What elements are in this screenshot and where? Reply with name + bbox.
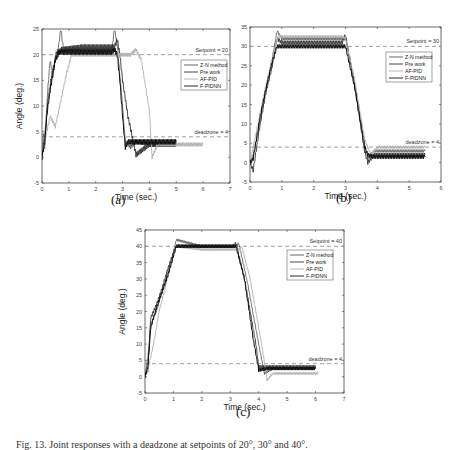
x-tick-label: 5 (175, 186, 178, 192)
legend: Z-N methodPre workAF-PIDF-PIDNN (386, 52, 433, 82)
x-tick-label: 0 (143, 396, 146, 402)
y-tick-label: 5 (139, 357, 142, 363)
y-tick-label: 20 (33, 52, 39, 58)
y-tick-label: 10 (136, 341, 142, 347)
y-tick-label: 35 (241, 24, 247, 30)
y-tick-label: -5 (34, 180, 39, 186)
legend-label-pre: Pre work (405, 61, 426, 67)
y-tick-label: 25 (241, 63, 247, 69)
y-tick-label: 35 (136, 260, 142, 266)
y-tick-label: 45 (136, 227, 142, 233)
x-tick-label: 1 (67, 186, 70, 192)
figure-caption: Fig. 13. Joint responses with a deadzone… (16, 439, 308, 450)
x-tick-label: 0 (40, 186, 43, 192)
y-tick-label: 10 (33, 103, 39, 109)
legend-label-af: AF-PID (405, 68, 422, 74)
legend-label-fpidnn: F-PIDNN (306, 273, 327, 279)
y-tick-label: 0 (244, 160, 247, 166)
x-tick-label: 2 (200, 396, 203, 402)
legend-label-pre: Pre work (200, 69, 221, 75)
legend-label-af: AF-PID (306, 266, 323, 272)
x-tick-label: 6 (314, 396, 317, 402)
y-tick-label: 30 (136, 276, 142, 282)
annotation-label: deadzone = 4 (195, 129, 229, 135)
y-tick-label: 0 (139, 374, 142, 380)
y-axis-label: Angle (deg.) (14, 83, 24, 129)
x-tick-label: 5 (408, 185, 411, 191)
annotation-label: deadzone = 4 (406, 139, 440, 145)
y-tick-label: 25 (136, 292, 142, 298)
annotation-label: Setpoint = 40 (309, 238, 342, 244)
y-tick-label: -5 (137, 390, 142, 396)
annotation-label: Setpoint = 20 (195, 47, 228, 53)
y-tick-label: 15 (136, 325, 142, 331)
y-tick-label: 10 (241, 121, 247, 127)
legend-label-fpidnn: F-PIDNN (200, 83, 221, 89)
y-tick-label: 5 (36, 129, 39, 135)
x-tick-label: 2 (312, 185, 315, 191)
x-tick-label: 1 (172, 396, 175, 402)
annotation-label: deadzone = 4 (309, 356, 343, 362)
x-tick-label: 7 (228, 186, 231, 192)
y-tick-label: 30 (241, 43, 247, 49)
chart-a: 01234567-50510152025Time (sec.)Angle (de… (14, 26, 232, 202)
y-tick-label: 20 (241, 82, 247, 88)
y-tick-label: 40 (136, 243, 142, 249)
legend-label-af: AF-PID (200, 76, 217, 82)
legend-label-zn: Z-N method (200, 62, 228, 68)
x-tick-label: 6 (202, 186, 205, 192)
y-tick-label: 0 (36, 154, 39, 160)
legend-label-zn: Z-N method (306, 252, 334, 258)
legend: Z-N methodPre workAF-PIDF-PIDNN (287, 250, 334, 280)
legend-label-pre: Pre work (306, 259, 327, 265)
x-tick-label: 5 (286, 396, 289, 402)
x-tick-label: 1 (280, 185, 283, 191)
panel-label-a: (a) (111, 192, 125, 208)
y-tick-label: 5 (244, 140, 247, 146)
y-tick-label: 20 (136, 309, 142, 315)
y-tick-label: 15 (241, 102, 247, 108)
x-tick-label: 6 (439, 185, 442, 191)
y-tick-label: 25 (33, 26, 39, 32)
y-axis-label: Angle (deg.) (117, 288, 127, 334)
panel-label-c: (c) (236, 404, 250, 420)
y-tick-label: 15 (33, 77, 39, 83)
y-tick-label: -5 (242, 179, 247, 185)
chart-b: 0123456-505101520253035Time (sec.)Setpoi… (241, 24, 443, 201)
x-tick-label: 0 (248, 185, 251, 191)
x-tick-label: 7 (342, 396, 345, 402)
annotation-label: Setpoint = 30 (406, 38, 439, 44)
x-tick-label: 2 (94, 186, 97, 192)
legend: Z-N methodPre workAF-PIDF-PIDNN (181, 60, 228, 90)
legend-label-zn: Z-N method (405, 54, 433, 60)
chart-c: 01234567-5051015202530354045Time (sec.)A… (117, 227, 346, 412)
x-tick-label: 4 (376, 185, 379, 191)
legend-label-fpidnn: F-PIDNN (405, 75, 426, 81)
panel-label-b: (b) (336, 190, 351, 206)
